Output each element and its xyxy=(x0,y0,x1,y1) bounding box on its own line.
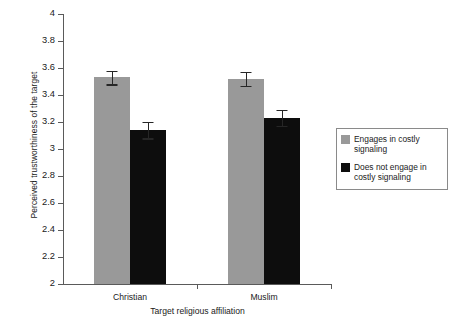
error-bar-cap-upper xyxy=(143,122,154,123)
error-bar xyxy=(246,72,247,86)
legend-label-does-not-engage-line2: costly signaling xyxy=(354,172,411,182)
y-tick-label: 2 xyxy=(50,278,55,288)
bar xyxy=(264,118,300,284)
error-bar-cap-lower xyxy=(143,138,154,139)
error-bar-cap-lower xyxy=(277,126,288,127)
chart-legend: Engages in costly signaling Does not eng… xyxy=(336,128,448,190)
legend-item-does-not-engage: Does not engage in costly signaling xyxy=(341,162,443,183)
legend-item-engages: Engages in costly signaling xyxy=(341,134,443,155)
x-category-label: Muslim xyxy=(250,292,277,302)
y-tick-label: 3.8 xyxy=(42,35,55,45)
y-tick-label: 4 xyxy=(50,8,55,18)
y-tick-label: 2.2 xyxy=(42,251,55,261)
plot-area xyxy=(63,14,331,284)
error-bar xyxy=(282,110,283,126)
bar-chart-figure: Perceived trustworthiness of the target … xyxy=(0,0,452,325)
bar xyxy=(130,130,166,284)
bar xyxy=(94,77,130,284)
x-tick-mark-end xyxy=(331,284,332,289)
legend-label-does-not-engage: Does not engage in costly signaling xyxy=(354,162,427,183)
y-tick-label: 3.2 xyxy=(42,116,55,126)
legend-label-engages: Engages in costly signaling xyxy=(354,134,420,155)
legend-label-does-not-engage-line1: Does not engage in xyxy=(354,162,427,172)
y-tick-label: 2.8 xyxy=(42,170,55,180)
y-axis-title: Perceived trustworthiness of the target xyxy=(29,25,39,265)
y-tick-label: 3.6 xyxy=(42,62,55,72)
error-bar xyxy=(148,122,149,138)
legend-label-engages-line1: Engages in costly xyxy=(354,134,420,144)
error-bar-cap-upper xyxy=(277,110,288,111)
x-category-label: Christian xyxy=(113,292,147,302)
error-bar-cap-lower xyxy=(107,84,118,85)
y-tick-label: 3.4 xyxy=(42,89,55,99)
error-bar xyxy=(112,71,113,85)
y-tick-mark xyxy=(58,284,63,285)
x-tick-mark xyxy=(197,284,198,289)
legend-swatch-black-icon xyxy=(341,163,350,172)
error-bar-cap-upper xyxy=(107,71,118,72)
y-tick-label: 3 xyxy=(50,143,55,153)
legend-label-engages-line2: signaling xyxy=(354,144,387,154)
error-bar-cap-lower xyxy=(241,86,252,87)
legend-swatch-gray-icon xyxy=(341,135,350,144)
error-bar-cap-upper xyxy=(241,72,252,73)
bar xyxy=(228,79,264,284)
y-tick-label: 2.6 xyxy=(42,197,55,207)
x-axis-title: Target religious affiliation xyxy=(63,306,332,316)
y-tick-label: 2.4 xyxy=(42,224,55,234)
